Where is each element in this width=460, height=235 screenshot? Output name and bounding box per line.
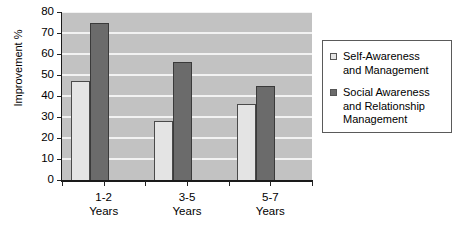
- bar: [90, 23, 109, 181]
- x-axis-category-label: 1-2Years: [64, 190, 144, 218]
- y-axis-tick-mark: [57, 96, 61, 97]
- x-axis-category-label-line1: 3-5: [147, 190, 227, 204]
- y-axis-tick-mark: [57, 75, 61, 76]
- bar: [71, 81, 90, 180]
- y-axis-tick-label: 0: [30, 174, 54, 185]
- y-axis-tick-label: 30: [30, 111, 54, 122]
- y-axis-tick-label: 40: [30, 90, 54, 101]
- y-axis-tick-mark: [57, 12, 61, 13]
- bar: [256, 86, 275, 181]
- x-axis-category-label-line2: Years: [230, 204, 310, 218]
- y-axis-tick-mark: [57, 138, 61, 139]
- x-axis-tick-mark: [104, 181, 105, 186]
- bar: [154, 121, 173, 180]
- bar: [173, 62, 192, 180]
- x-axis-tick-mark: [312, 181, 313, 186]
- x-axis-tick-mark: [229, 181, 230, 186]
- x-axis-category-label-line1: 5-7: [230, 190, 310, 204]
- bar: [237, 104, 256, 180]
- y-axis-tick-label: 10: [30, 153, 54, 164]
- legend-entry-self-awareness: Self-Awareness and Management: [330, 50, 450, 77]
- x-axis-category-label-line1: 1-2: [64, 190, 144, 204]
- x-axis-category-label-line2: Years: [147, 204, 227, 218]
- legend-swatch-icon: [330, 89, 337, 96]
- legend-entry-social-awareness: Social Awareness and Relationship Manage…: [330, 86, 450, 127]
- x-axis-tick-mark: [145, 181, 146, 186]
- y-axis-tick-mark: [57, 117, 61, 118]
- legend-swatch-icon: [330, 53, 337, 60]
- x-axis-tick-mark: [62, 181, 63, 186]
- y-axis-tick-mark: [57, 33, 61, 34]
- gridline: [62, 12, 312, 13]
- y-axis-tick-label: 80: [30, 6, 54, 17]
- x-axis-category-label-line2: Years: [64, 204, 144, 218]
- y-axis-tick-label: 70: [30, 27, 54, 38]
- x-axis-tick-mark: [187, 181, 188, 186]
- y-axis-tick-label: 20: [30, 132, 54, 143]
- y-axis-tick-mark: [57, 180, 61, 181]
- y-axis-title: Improvement %: [12, 8, 24, 128]
- plot-area: [62, 12, 312, 180]
- legend-label: Social Awareness and Relationship Manage…: [343, 86, 450, 127]
- y-axis-tick-mark: [57, 54, 61, 55]
- y-axis-tick-mark: [57, 159, 61, 160]
- legend: Self-Awareness and Management Social Awa…: [322, 40, 452, 133]
- x-axis-category-label: 3-5Years: [147, 190, 227, 218]
- y-axis-tick-label: 60: [30, 48, 54, 59]
- x-axis-tick-mark: [270, 181, 271, 186]
- y-axis-tick-label: 50: [30, 69, 54, 80]
- x-axis-category-label: 5-7Years: [230, 190, 310, 218]
- y-axis-tick-labels: 01020304050607080: [30, 12, 54, 180]
- legend-label: Self-Awareness and Management: [343, 50, 450, 77]
- bar-chart: Improvement % 01020304050607080 1-2Years…: [0, 0, 460, 235]
